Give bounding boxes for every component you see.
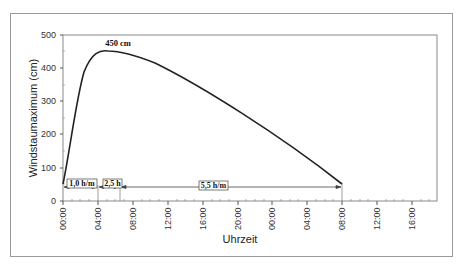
y-tick-400: 400	[41, 63, 56, 73]
y-tick-0: 0	[51, 196, 56, 206]
y-tick-500: 500	[41, 30, 56, 40]
x-tick-6: 00:00	[267, 207, 277, 230]
x-tick-8: 08:00	[337, 207, 347, 230]
x-tick-0: 00:00	[58, 207, 68, 230]
windstau-curve	[63, 51, 342, 184]
x-axis-title: Uhrzeit	[223, 233, 258, 245]
y-tick-200: 200	[41, 129, 56, 139]
x-axis-major-ticks	[63, 201, 412, 205]
x-tick-3: 12:00	[163, 207, 173, 230]
x-tick-1: 04:00	[93, 207, 103, 230]
seg1-label: 1,0 h/m	[69, 179, 95, 188]
y-tick-100: 100	[41, 163, 56, 173]
windstau-chart: 0 100 200 300 400 500 Windstaumaximum (c…	[0, 0, 465, 269]
y-axis-title: Windstaumaximum (cm)	[27, 59, 39, 178]
x-tick-9: 12:00	[372, 207, 382, 230]
x-tick-2: 08:00	[128, 207, 138, 230]
seg2-label: 2,5 h	[104, 179, 121, 188]
x-tick-7: 04:00	[302, 207, 312, 230]
peak-label: 450 cm	[105, 38, 131, 48]
x-tick-10: 16:00	[407, 207, 417, 230]
seg3-label: 5,5 h/m	[201, 181, 227, 190]
x-tick-5: 20:00	[233, 207, 243, 230]
y-tick-300: 300	[41, 96, 56, 106]
x-tick-4: 16:00	[198, 207, 208, 230]
